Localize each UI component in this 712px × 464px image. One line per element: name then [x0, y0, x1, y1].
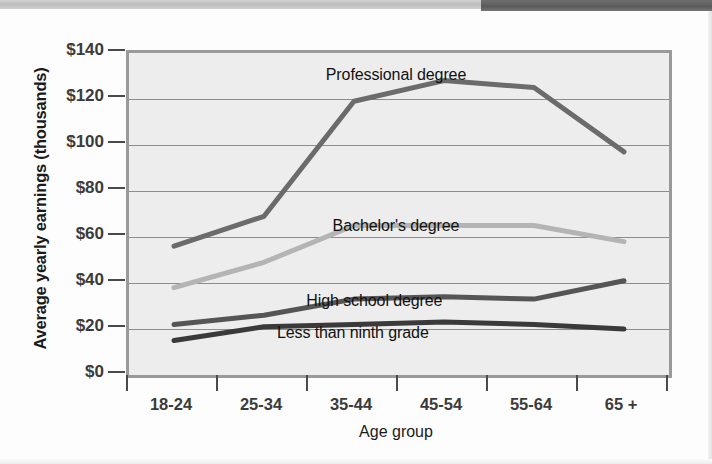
series-label: Bachelor's degree — [333, 217, 460, 235]
y-axis-tick-mark — [108, 95, 125, 97]
y-axis-tick-label: $120 — [36, 87, 104, 104]
series-label: High school degree — [306, 292, 442, 310]
x-axis-tick-mark — [486, 375, 488, 391]
x-axis-tick-label: 18-24 — [121, 395, 221, 414]
y-axis-tick-mark — [108, 233, 125, 235]
y-axis-tick-label: $140 — [36, 41, 104, 58]
y-axis-tick-label: $100 — [36, 133, 104, 150]
line-chart-figure: Average yearly earnings (thousands) $0$2… — [0, 9, 700, 461]
x-axis-tick-mark — [396, 375, 398, 391]
y-axis-tick-label: $80 — [36, 179, 104, 196]
y-axis-tick-label: $0 — [36, 363, 104, 380]
y-axis-tick-label: $60 — [36, 225, 104, 242]
scanned-page: Average yearly earnings (thousands) $0$2… — [0, 0, 712, 464]
y-axis-tick-mark — [108, 187, 125, 189]
x-axis-tick-mark — [126, 375, 128, 391]
y-axis-tick-labels: $0$20$40$60$80$100$120$140 — [36, 9, 104, 389]
y-axis-tick-mark — [108, 371, 125, 373]
page-edge-right — [708, 11, 712, 464]
x-axis-tick-label: 35-44 — [301, 395, 401, 414]
x-axis-tick-mark — [576, 375, 578, 391]
series-label: Professional degree — [326, 66, 466, 84]
y-axis-tick-mark — [108, 141, 125, 143]
x-axis-tick-label: 25-34 — [211, 395, 311, 414]
series-label: Less than ninth grade — [277, 324, 429, 342]
y-axis-tick-mark — [108, 325, 125, 327]
x-axis-tick-mark — [306, 375, 308, 391]
x-axis-tick-mark — [666, 375, 668, 391]
y-axis-tick-mark — [108, 279, 125, 281]
y-axis-tick-label: $40 — [36, 271, 104, 288]
x-axis-tick-label: 65 + — [571, 395, 671, 414]
x-axis-tick-label: 45-54 — [391, 395, 491, 414]
y-axis-tick-mark — [108, 49, 125, 51]
x-axis-tick-mark — [216, 375, 218, 391]
x-axis-tick-label: 55-64 — [481, 395, 581, 414]
y-axis-tick-label: $20 — [36, 317, 104, 334]
x-axis-title: Age group — [126, 423, 666, 441]
